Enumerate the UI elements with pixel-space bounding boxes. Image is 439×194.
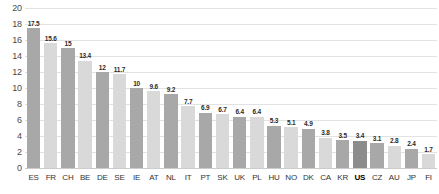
bar-value-label: 6.4 <box>253 109 261 116</box>
bar[interactable] <box>336 140 349 168</box>
bar-slot[interactable]: 10 <box>128 8 145 168</box>
bar-chart: 02468101214161820 17.515.61513.41211.710… <box>0 0 439 194</box>
bar-slot[interactable]: 3.5 <box>334 8 351 168</box>
bar-value-label: 11.7 <box>114 67 126 74</box>
bar[interactable] <box>319 138 332 168</box>
bar-slot[interactable]: 3.4 <box>351 8 368 168</box>
x-axis-tick-label: CH <box>59 170 76 186</box>
bar[interactable] <box>164 94 177 168</box>
bar-slot[interactable]: 6.4 <box>248 8 265 168</box>
bar-value-label: 13.4 <box>79 53 91 60</box>
bar-value-label: 9.2 <box>167 87 175 94</box>
bar-slot[interactable]: 17.5 <box>25 8 42 168</box>
y-axis-tick-label: 6 <box>17 116 22 125</box>
bar[interactable] <box>216 114 229 168</box>
bar[interactable] <box>353 141 366 168</box>
bar-slot[interactable]: 5.3 <box>265 8 282 168</box>
plot-area: 17.515.61513.41211.7109.69.27.76.96.76.4… <box>25 8 437 168</box>
bar-slot[interactable]: 1.7 <box>420 8 437 168</box>
bar-value-label: 3.4 <box>356 133 364 140</box>
x-axis-tick-label: DK <box>300 170 317 186</box>
y-axis-tick-label: 16 <box>12 36 22 45</box>
bar[interactable] <box>405 149 418 168</box>
bar-slot[interactable]: 2.8 <box>386 8 403 168</box>
bar[interactable] <box>27 28 40 168</box>
x-axis-tick-label: FI <box>420 170 437 186</box>
x-axis-tick-label: BE <box>77 170 94 186</box>
x-axis-tick-label: HU <box>265 170 282 186</box>
bar-value-label: 3.8 <box>321 130 329 137</box>
x-axis-tick-label: FR <box>42 170 59 186</box>
bar-slot[interactable]: 5.1 <box>283 8 300 168</box>
bar-value-label: 6.7 <box>218 107 226 114</box>
bar-slot[interactable]: 12 <box>94 8 111 168</box>
x-axis-tick-label: ES <box>25 170 42 186</box>
x-axis-tick-label: PT <box>197 170 214 186</box>
bar-slot[interactable]: 11.7 <box>111 8 128 168</box>
bar-slot[interactable]: 15.6 <box>42 8 59 168</box>
bar[interactable] <box>302 129 315 168</box>
bar[interactable] <box>78 61 91 168</box>
bar[interactable] <box>388 146 401 168</box>
x-axis: ESFRCHBEDESEIEATNLITPTSKUKPLHUNODKCAKRUS… <box>25 170 437 186</box>
x-axis-tick-label: CZ <box>368 170 385 186</box>
x-axis-tick-label: JP <box>403 170 420 186</box>
bar-value-label: 3.1 <box>373 136 381 143</box>
bar[interactable] <box>422 154 435 168</box>
x-axis-tick-label: DE <box>94 170 111 186</box>
bar[interactable] <box>44 43 57 168</box>
x-axis-tick-label: NO <box>283 170 300 186</box>
x-axis-tick-label: AT <box>145 170 162 186</box>
bar-slot[interactable]: 15 <box>59 8 76 168</box>
bar[interactable] <box>130 88 143 168</box>
bar[interactable] <box>250 117 263 168</box>
bar-value-label: 3.5 <box>338 133 346 140</box>
x-axis-tick-label: SE <box>111 170 128 186</box>
bar-slot[interactable]: 3.8 <box>317 8 334 168</box>
bar-value-label: 4.9 <box>304 121 312 128</box>
bar[interactable] <box>96 72 109 168</box>
bar[interactable] <box>181 106 194 168</box>
bar[interactable] <box>61 48 74 168</box>
y-axis-tick-label: 12 <box>12 68 22 77</box>
x-axis-tick-label: SK <box>214 170 231 186</box>
bar-value-label: 5.1 <box>287 120 295 127</box>
y-axis-tick-label: 14 <box>12 52 22 61</box>
bar[interactable] <box>284 127 297 168</box>
bar-value-label: 5.3 <box>270 118 278 125</box>
bar[interactable] <box>147 91 160 168</box>
x-axis-tick-label: UK <box>231 170 248 186</box>
axis-baseline <box>25 168 437 169</box>
bar[interactable] <box>267 126 280 168</box>
y-axis: 02468101214161820 <box>0 0 24 194</box>
bar-value-label: 9.6 <box>150 84 158 91</box>
bar-slot[interactable]: 6.4 <box>231 8 248 168</box>
y-axis-tick-label: 10 <box>12 84 22 93</box>
bar-slot[interactable]: 4.9 <box>300 8 317 168</box>
bar-slot[interactable]: 3.1 <box>368 8 385 168</box>
bar-slot[interactable]: 9.6 <box>145 8 162 168</box>
bar[interactable] <box>370 143 383 168</box>
bar-slot[interactable]: 6.9 <box>197 8 214 168</box>
y-axis-tick-label: 4 <box>17 132 22 141</box>
bar[interactable] <box>199 113 212 168</box>
bar-slot[interactable]: 9.2 <box>162 8 179 168</box>
bar-value-label: 15 <box>65 41 72 48</box>
bar[interactable] <box>113 74 126 168</box>
bar-value-label: 6.4 <box>235 109 243 116</box>
x-axis-tick-label: US <box>351 170 368 186</box>
x-axis-tick-label: IT <box>180 170 197 186</box>
bars-group: 17.515.61513.41211.7109.69.27.76.96.76.4… <box>25 8 437 168</box>
bar-slot[interactable]: 7.7 <box>180 8 197 168</box>
x-axis-tick-label: CA <box>317 170 334 186</box>
bar-value-label: 10 <box>133 81 140 88</box>
y-axis-tick-label: 0 <box>17 164 22 173</box>
x-axis-tick-label: IE <box>128 170 145 186</box>
x-axis-tick-label: NL <box>162 170 179 186</box>
bar-slot[interactable]: 2.4 <box>403 8 420 168</box>
y-axis-tick-label: 18 <box>12 20 22 29</box>
bar[interactable] <box>233 117 246 168</box>
y-axis-tick-label: 20 <box>12 4 22 13</box>
bar-slot[interactable]: 6.7 <box>214 8 231 168</box>
bar-slot[interactable]: 13.4 <box>77 8 94 168</box>
